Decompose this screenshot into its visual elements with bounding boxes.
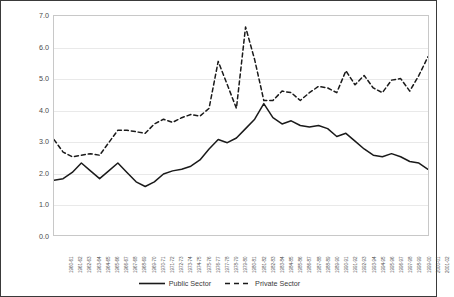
y-axis-tick: 6.0 (39, 42, 49, 51)
x-axis-tick-labels: 1960-611961-621962-631963-641964-651965-… (53, 237, 429, 273)
y-axis-tick: 7.0 (39, 11, 49, 20)
y-axis-tick: 2.0 (39, 168, 49, 177)
legend-label: Private Sector (255, 279, 300, 288)
y-axis-tick: 5.0 (39, 74, 49, 83)
legend-item[interactable]: Private Sector (225, 279, 300, 288)
legend-swatch-solid (139, 280, 165, 287)
plot-area (53, 15, 429, 236)
series-line-private-sector (54, 27, 428, 157)
x-axis-tick: 2001-02 (429, 237, 454, 273)
y-axis-tick: 0.0 (39, 232, 49, 241)
legend-label: Public Sector (169, 279, 211, 288)
y-axis-tick: 3.0 (39, 137, 49, 146)
y-axis-tick: 4.0 (39, 105, 49, 114)
chart-legend: Public SectorPrivate Sector (1, 275, 438, 291)
legend-swatch-dashed (225, 280, 251, 287)
series-canvas (54, 16, 428, 235)
y-axis-tick: 1.0 (39, 200, 49, 209)
series-line-public-sector (54, 104, 428, 187)
legend-item[interactable]: Public Sector (139, 279, 211, 288)
y-axis-tick-labels: 7.06.05.04.03.02.01.00.0 (19, 15, 49, 236)
